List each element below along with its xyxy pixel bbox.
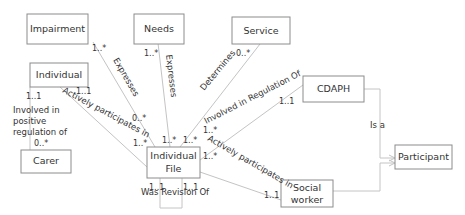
entity-cdaph[interactable]: CDAPH [303,76,364,102]
entity-impairment-label: Impairment [30,23,85,34]
entity-social-worker-label-2: worker [291,194,323,205]
entity-carer-label: Carer [33,155,59,166]
entity-participant[interactable]: Participant [395,145,452,169]
entity-social-worker-label-1: Social [293,182,321,193]
mult-socialworker-target: 1..* [203,152,217,161]
entity-carer[interactable]: Carer [21,150,71,173]
entity-service-label: Service [243,25,278,36]
mult-needs-target: 1..* [162,136,176,145]
entity-individual-file-label-2: File [166,163,182,174]
mult-individual-carer-source: 1..1 [26,92,41,101]
entity-individual-label: Individual [36,69,82,80]
mult-individual-participates-source: 1..1 [76,87,91,96]
entity-individual-file[interactable]: Individual File [147,147,200,178]
entity-individual[interactable]: Individual [30,63,88,87]
relation-impairment-expresses-label: Expresses [111,56,141,99]
mult-cdaph-source: 1..1 [279,97,294,106]
relation-socialworker-participates-label: Actively participates in [206,133,295,190]
mult-service-target: 1..* [183,136,197,145]
mult-socialworker-source: 1..1 [264,191,279,200]
class-diagram: Impairment Needs Service Individual CDAP… [0,0,465,215]
entity-impairment[interactable]: Impairment [27,14,88,44]
entity-participant-label: Participant [398,151,449,162]
mult-individual-participates-target: 0..* [132,114,146,123]
relation-individual-carer-label-3: regulation of [13,127,68,137]
relation-individual-carer-label-1: Involved in [13,105,60,115]
relation-individual-carer-label-2: positive [13,116,46,126]
entity-needs-label: Needs [144,23,174,34]
mult-needs-source: 1..* [144,49,158,58]
relation-is-a-label: Is a [370,120,385,130]
entity-needs[interactable]: Needs [134,14,184,44]
edge-socialworker-is-a [333,163,395,191]
entity-service[interactable]: Service [232,17,290,44]
mult-individual-carer-target: 0..* [34,139,48,148]
entity-individual-file-label-1: Individual [150,150,196,161]
mult-impairment-source: 1..* [92,44,106,53]
relation-service-determines-label: Determines [198,48,238,93]
mult-individual-participates-target-2: 1..* [133,139,147,148]
mult-service-source: 0..* [236,49,250,58]
relation-needs-expresses-label: Expresses [164,54,179,98]
relation-revision-label: Was Revision Of [141,187,210,197]
entity-cdaph-label: CDAPH [317,83,350,94]
